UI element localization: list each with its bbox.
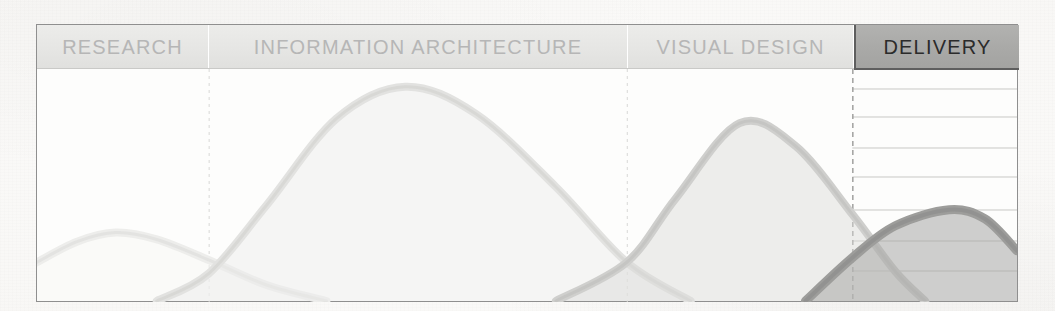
effort-curve-svg xyxy=(37,69,1017,302)
curve-group xyxy=(37,87,1017,301)
phase-header-label: INFORMATION ARCHITECTURE xyxy=(254,37,582,57)
phase-header-information-architecture[interactable]: INFORMATION ARCHITECTURE xyxy=(209,25,628,68)
phase-header-visual-design[interactable]: VISUAL DESIGN xyxy=(628,25,854,68)
effort-curve-plot xyxy=(37,69,1017,302)
phase-header-label: VISUAL DESIGN xyxy=(656,37,824,57)
phase-header-label: DELIVERY xyxy=(883,37,991,57)
phase-header-research[interactable]: RESEARCH xyxy=(37,25,209,68)
chart-frame: RESEARCHINFORMATION ARCHITECTUREVISUAL D… xyxy=(36,24,1018,302)
phase-header-delivery[interactable]: DELIVERY xyxy=(854,25,1019,68)
phase-header-row: RESEARCHINFORMATION ARCHITECTUREVISUAL D… xyxy=(37,25,1017,68)
phase-header-label: RESEARCH xyxy=(62,37,183,57)
